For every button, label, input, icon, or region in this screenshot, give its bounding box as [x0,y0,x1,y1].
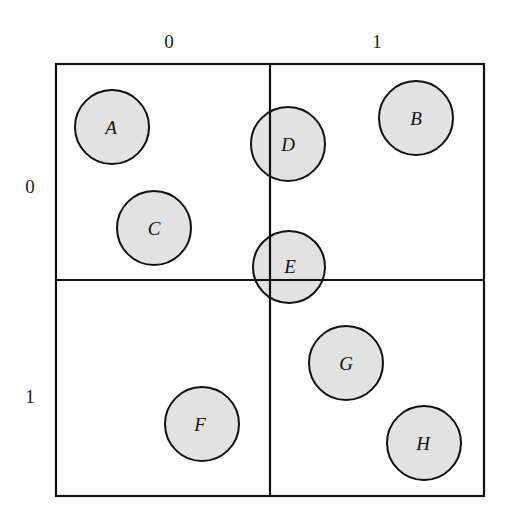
node-label-F: F [193,414,206,435]
row-label-1: 1 [25,386,35,407]
grid-diagram: 0 1 0 1 A B C D E F [0,0,510,522]
column-label-0: 0 [164,31,174,52]
node-label-B: B [410,108,422,129]
column-label-1: 1 [372,31,382,52]
node-label-H: H [415,433,431,454]
node-label-D: D [280,134,295,155]
node-label-E: E [283,256,296,277]
row-label-0: 0 [25,176,35,197]
node-label-G: G [339,353,353,374]
node-label-A: A [103,117,117,138]
node-label-C: C [148,218,161,239]
